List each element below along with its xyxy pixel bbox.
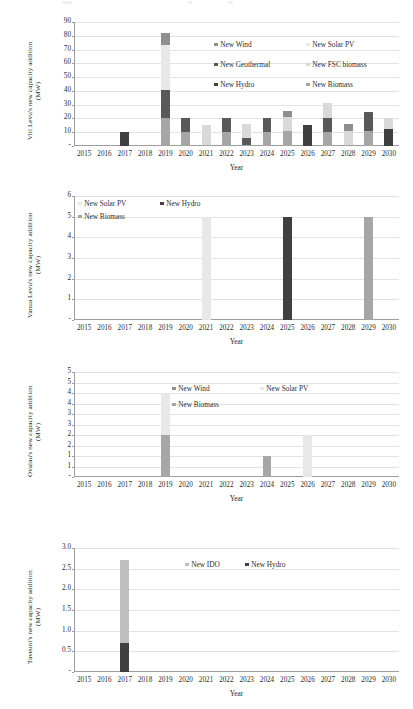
bar-slot-2017 <box>115 372 135 477</box>
stacked-bar[interactable] <box>283 217 292 320</box>
legend-item[interactable]: New Hydro <box>160 199 242 208</box>
bar-slot-2015 <box>74 372 94 477</box>
x-axis-tick-label: 2019 <box>155 150 175 158</box>
y-axis-tick-mark <box>72 320 74 321</box>
y-axis-tick-label: 3 <box>67 410 71 417</box>
legend-item[interactable]: New Wind <box>172 384 260 393</box>
stacked-bar[interactable] <box>263 456 272 477</box>
bar-segment <box>384 118 393 129</box>
stacked-bar[interactable] <box>303 435 312 477</box>
bar-slot-2016 <box>94 548 114 672</box>
legend: New Solar PVNew HydroNew Biomass <box>78 199 242 221</box>
stacked-bar[interactable] <box>161 33 170 146</box>
legend-swatch-icon <box>306 63 310 67</box>
bar-segment <box>303 125 312 146</box>
bar-slot-2016 <box>94 372 114 477</box>
legend-item[interactable]: New Wind <box>214 40 306 49</box>
stacked-bar[interactable] <box>161 393 170 477</box>
bar-slot-2029 <box>358 548 378 672</box>
stacked-bar[interactable] <box>344 124 353 146</box>
bar-segment <box>242 138 251 145</box>
stacked-bar[interactable] <box>120 560 129 672</box>
y-axis-tick-label: 1 <box>67 452 71 459</box>
legend-item[interactable]: New Solar PV <box>260 384 348 393</box>
x-axis-tick-label: 2029 <box>358 150 378 158</box>
stacked-bar[interactable] <box>303 125 312 146</box>
bar-segment <box>161 90 170 119</box>
x-axis-tick-label: 2019 <box>155 324 175 332</box>
bar-segment <box>364 131 373 146</box>
legend-item[interactable]: New Solar PV <box>306 40 398 49</box>
bar-segment <box>202 145 211 146</box>
y-axis-tick-label: 3.0 <box>62 544 71 551</box>
x-axis-tick-label: 2019 <box>155 481 175 489</box>
bar-slot-2025 <box>277 196 297 320</box>
bar-segment <box>181 132 190 146</box>
bar-slot-2018 <box>135 548 155 672</box>
x-axis-tick-label: 2025 <box>277 481 297 489</box>
x-axis-tick-label: 2023 <box>237 150 257 158</box>
bar-segment <box>283 217 292 320</box>
stacked-bar[interactable] <box>120 132 129 146</box>
x-axis-tick-label: 2018 <box>135 481 155 489</box>
legend-label: New Biomass <box>312 80 353 89</box>
stacked-bar[interactable] <box>364 217 373 320</box>
x-axis-tick-label: 2016 <box>94 324 114 332</box>
stacked-bar[interactable] <box>263 118 272 146</box>
legend-item[interactable]: New Solar PV <box>78 199 160 208</box>
stacked-bar[interactable] <box>384 118 393 146</box>
legend-label: New IDO <box>191 560 220 569</box>
y-axis-tick-label: 4 <box>67 400 71 407</box>
x-axis-tick-label: 2027 <box>318 676 338 684</box>
x-axis-tick-label: 2028 <box>338 150 358 158</box>
bar-slot-2018 <box>135 372 155 477</box>
x-axis-tick-label: 2018 <box>135 676 155 684</box>
legend-label: New Hydro <box>166 199 200 208</box>
y-axis-tick-label: 0.5 <box>62 648 71 655</box>
x-axis-tick-label: 2023 <box>237 676 257 684</box>
x-axis-tick-label: 2028 <box>338 676 358 684</box>
stacked-bar[interactable] <box>202 217 211 320</box>
x-axis-tick-label: 2030 <box>379 324 399 332</box>
bar-slot-2028 <box>338 548 358 672</box>
stacked-bar[interactable] <box>181 118 190 146</box>
x-axis-tick-label: 2016 <box>94 481 114 489</box>
stacked-bar[interactable] <box>222 118 231 146</box>
figure-page: Viti Levu's new capacity addition (MW)-1… <box>0 0 413 709</box>
x-axis-tick-labels: 2015201620172018201920202021202220232024… <box>74 481 399 489</box>
bar-slot-2027 <box>318 548 338 672</box>
bar-segment <box>242 145 251 146</box>
stacked-bar[interactable] <box>242 124 251 146</box>
x-axis-tick-labels: 2015201620172018201920202021202220232024… <box>74 150 399 158</box>
x-axis-tick-label: 2017 <box>115 324 135 332</box>
legend-item[interactable]: New Hydro <box>245 560 305 569</box>
stacked-bar[interactable] <box>364 112 373 146</box>
legend-label: New Hydro <box>251 560 285 569</box>
bar-segment <box>323 132 332 146</box>
legend-swatch-icon <box>78 215 82 219</box>
legend-swatch-icon <box>306 83 310 87</box>
x-axis-tick-label: 2025 <box>277 676 297 684</box>
stacked-bar[interactable] <box>323 103 332 146</box>
stacked-bar[interactable] <box>283 111 292 146</box>
y-axis-tick-label: 20 <box>64 115 71 122</box>
legend-swatch-icon <box>172 387 176 391</box>
x-axis-tick-label: 2022 <box>216 676 236 684</box>
x-axis-tick-label: 2016 <box>94 676 114 684</box>
y-axis-tick-label: 1 <box>67 463 71 470</box>
legend-item[interactable]: New IDO <box>185 560 245 569</box>
stacked-bar[interactable] <box>202 125 211 146</box>
x-axis-tick-label: 2030 <box>379 481 399 489</box>
legend-item[interactable]: New Biomass <box>78 212 160 221</box>
legend-item[interactable]: New FSC biomass <box>306 60 398 69</box>
legend-item[interactable]: New Biomass <box>306 80 398 89</box>
legend-item[interactable]: New Biomass <box>172 400 260 409</box>
y-axis-title: Ovalau's new capacity addition (MW) <box>26 372 43 491</box>
legend-item[interactable]: New Geothermal <box>214 60 306 69</box>
legend-item[interactable]: New Hydro <box>214 80 306 89</box>
y-axis-tick-label: 40 <box>64 87 71 94</box>
x-axis-tick-label: 2015 <box>74 324 94 332</box>
x-axis-tick-label: 2029 <box>358 481 378 489</box>
bar-slot-2017 <box>115 548 135 672</box>
bar-slot-2018 <box>135 22 155 146</box>
